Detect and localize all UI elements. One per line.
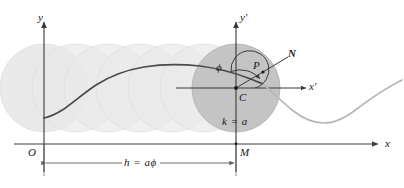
foot-label-M: M <box>240 147 249 158</box>
figure-container: y x y' x' O M C P N ϕ k = a h = aϕ <box>0 0 404 188</box>
x-prime-axis-label: x' <box>309 81 316 92</box>
roulette-curve-light <box>263 80 402 123</box>
distance-label-h-equals-a-phi: h = aϕ <box>124 157 157 168</box>
y-axis-label: y <box>38 12 43 23</box>
contact-point-P <box>261 70 264 73</box>
center-label-C: C <box>239 92 246 103</box>
radius-label-k-equals-a: k = a <box>222 116 248 127</box>
figure-canvas <box>0 0 404 188</box>
origin-label-O: O <box>28 147 36 158</box>
center-point-C <box>234 86 238 90</box>
x-axis-label: x <box>385 138 390 149</box>
angle-label-phi: ϕ <box>216 62 222 73</box>
y-prime-axis-label: y' <box>240 12 247 23</box>
point-label-N: N <box>288 48 296 59</box>
point-label-P: P <box>253 60 260 71</box>
